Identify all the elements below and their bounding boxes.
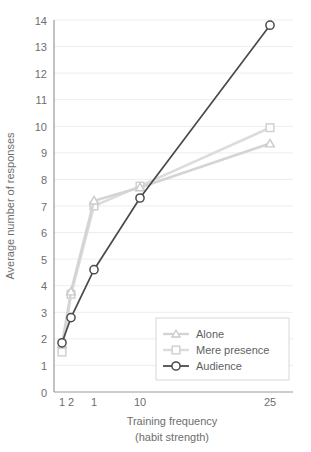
data-point-marker (266, 21, 274, 29)
square-icon (172, 346, 180, 354)
y-tick-label: 10 (35, 121, 47, 133)
line-chart: 0 1 2 3 4 5 6 7 8 9 10 11 12 13 14 1 2 1… (0, 0, 311, 452)
data-point-marker (136, 194, 144, 202)
y-tick-label: 0 (41, 387, 47, 399)
x-tick-label: 1 (59, 396, 65, 408)
legend-label-mere-presence: Mere presence (196, 344, 269, 356)
y-tick-label: 1 (41, 360, 47, 372)
x-tick-label: 10 (134, 396, 146, 408)
x-axis-title: Training frequency (127, 415, 218, 427)
legend: Alone Mere presence Audience (156, 318, 289, 380)
data-point-marker (67, 314, 75, 322)
y-tick-label: 9 (41, 147, 47, 159)
y-axis-title: Average number of responses (4, 132, 16, 280)
y-tick-label: 12 (35, 68, 47, 80)
y-tick-label: 6 (41, 227, 47, 239)
x-tick-label: 2 (68, 396, 74, 408)
legend-label-alone: Alone (196, 328, 224, 340)
y-tick-label: 4 (41, 280, 47, 292)
circle-icon (172, 362, 180, 370)
data-point-marker (58, 339, 66, 347)
y-tick-label: 5 (41, 254, 47, 266)
y-tick-label: 14 (35, 15, 47, 27)
y-tick-label: 11 (36, 94, 47, 106)
y-tick-label: 3 (41, 307, 47, 319)
chart-container: 0 1 2 3 4 5 6 7 8 9 10 11 12 13 14 1 2 1… (0, 0, 311, 452)
x-tick-label: 25 (264, 396, 276, 408)
data-point-marker (58, 348, 66, 356)
y-tick-label: 8 (41, 174, 47, 186)
y-tick-label: 2 (41, 333, 47, 345)
legend-label-audience: Audience (196, 360, 242, 372)
x-tick-label: 1 (91, 396, 97, 408)
x-axis-subtitle: (habit strength) (135, 431, 209, 443)
y-tick-label: 7 (41, 201, 47, 213)
data-point-marker (90, 266, 98, 274)
legend-item-mere-presence[interactable]: Mere presence (163, 344, 269, 356)
data-point-marker (266, 124, 274, 132)
legend-item-audience[interactable]: Audience (163, 360, 242, 372)
y-tick-label: 13 (35, 41, 47, 53)
